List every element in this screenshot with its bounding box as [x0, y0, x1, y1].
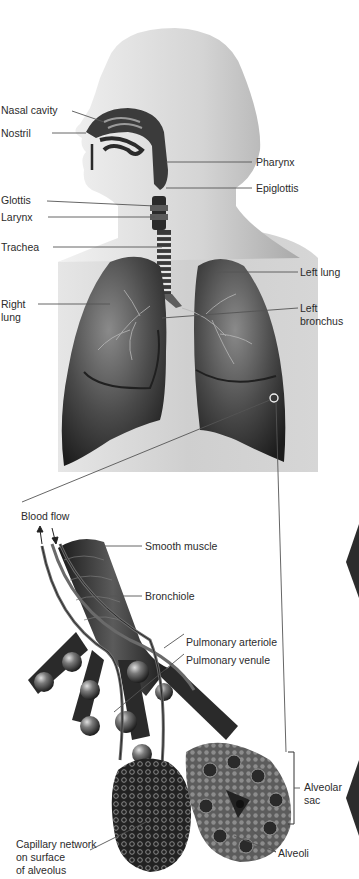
label-left-lung: Left lung	[300, 266, 340, 279]
head-silhouette	[58, 28, 300, 262]
bronchiole-inset	[28, 526, 294, 872]
label-right-lung: Right lung	[1, 298, 26, 324]
label-left-bronchus: Left bronchus	[300, 302, 343, 328]
label-nasal-cavity: Nasal cavity	[1, 104, 58, 117]
label-epiglottis: Epiglottis	[256, 182, 299, 195]
label-smooth-muscle: Smooth muscle	[145, 540, 217, 553]
label-trachea: Trachea	[1, 241, 39, 254]
respiratory-diagram: Nasal cavity Nostril Pharynx Epiglottis …	[0, 0, 359, 879]
label-pharynx: Pharynx	[256, 156, 295, 169]
label-glottis: Glottis	[1, 194, 31, 207]
cropped-edge-shapes	[346, 524, 359, 836]
label-nostril: Nostril	[1, 127, 31, 140]
label-blood-flow: Blood flow	[21, 510, 69, 523]
label-alveolar-sac: Alveolar sac	[304, 781, 342, 807]
label-pulmonary-venule: Pulmonary venule	[186, 654, 270, 667]
label-larynx: Larynx	[1, 211, 33, 224]
label-alveoli: Alveoli	[278, 847, 309, 860]
label-pulmonary-arteriole: Pulmonary arteriole	[186, 636, 277, 649]
label-capillary-network: Capillary network on surface of alveolus	[16, 838, 97, 877]
blood-flow-arrows	[37, 526, 58, 544]
illustration	[0, 0, 359, 879]
label-bronchiole: Bronchiole	[145, 590, 195, 603]
